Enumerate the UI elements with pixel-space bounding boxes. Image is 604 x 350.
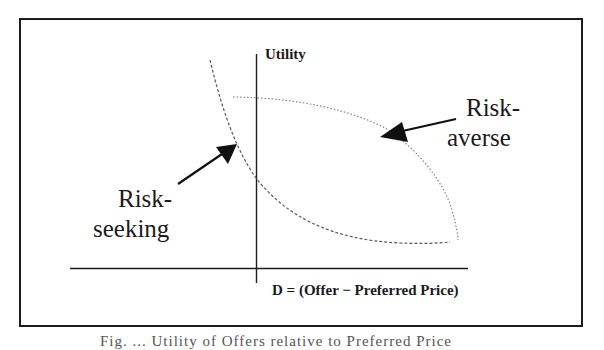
figure-caption-clipped: Fig. ... Utility of Offers relative to P… — [100, 333, 452, 350]
risk-averse-arrow — [380, 119, 456, 142]
risk-seeking-label-line1: Risk- — [118, 186, 172, 211]
x-axis-label: D = (Offer − Preferred Price) — [272, 283, 459, 298]
risk-seeking-arrow — [178, 144, 237, 184]
risk-seeking-label-line2: seeking — [93, 216, 169, 241]
y-axis-label: Utility — [265, 47, 306, 62]
risk-averse-label-line2: averse — [447, 125, 511, 150]
risk-averse-label-line1: Risk- — [466, 95, 520, 120]
risk-averse-curve — [233, 97, 458, 240]
